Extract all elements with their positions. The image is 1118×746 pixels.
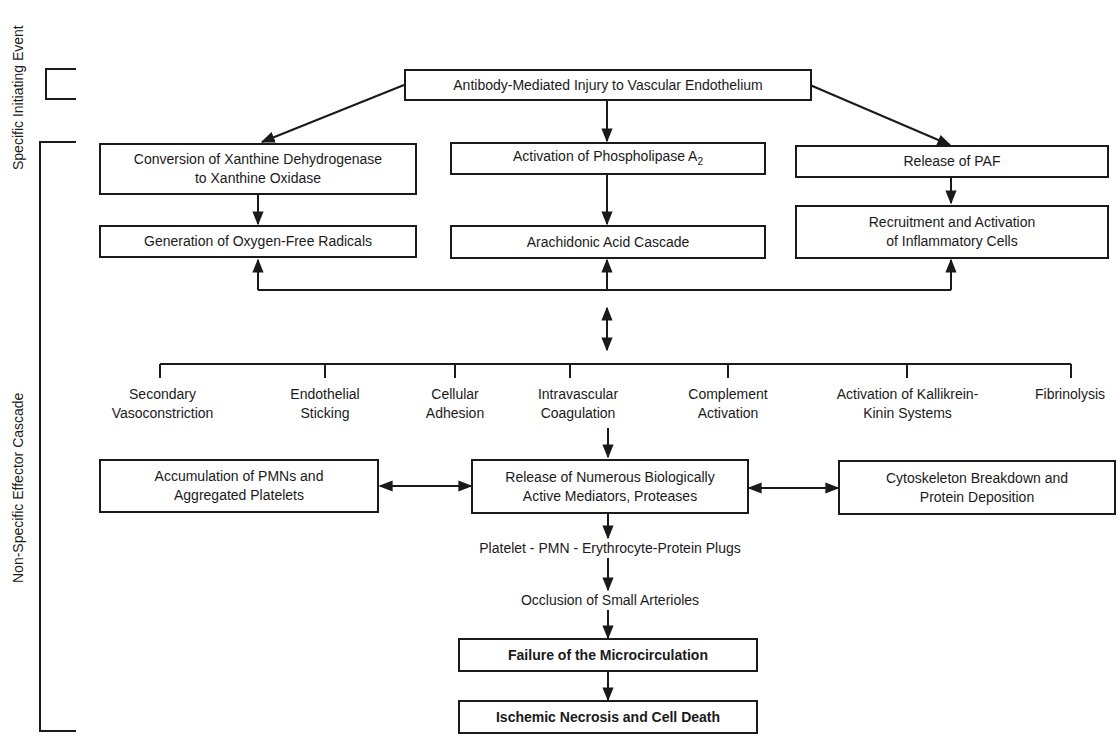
failure-node: Failure of the Microcirculation bbox=[458, 638, 758, 672]
failure-text: Failure of the Microcirculation bbox=[508, 646, 708, 665]
nonspecific-bracket bbox=[40, 142, 76, 731]
arachidonic-text: Arachidonic Acid Cascade bbox=[527, 233, 690, 252]
specific-initiating-event-label: Specific Initiating Event bbox=[10, 25, 26, 170]
effector-vasoconstriction: Secondary Vasoconstriction bbox=[95, 385, 230, 423]
root-node: Antibody-Mediated Injury to Vascular End… bbox=[404, 69, 812, 101]
effector-line2: Kinin Systems bbox=[820, 404, 995, 423]
occlusion-label: Occlusion of Small Arterioles bbox=[430, 591, 790, 610]
effector-line2: Vasoconstriction bbox=[95, 404, 230, 423]
effector-line1: Complement bbox=[668, 385, 788, 404]
phospholipase-subscript: 2 bbox=[697, 155, 703, 166]
cyto-line1: Cytoskeleton Breakdown and bbox=[886, 469, 1068, 488]
cyto-line2: Protein Deposition bbox=[920, 488, 1034, 507]
pmn-platelets-node: Accumulation of PMNs and Aggregated Plat… bbox=[99, 459, 379, 513]
recruit-line1: Recruitment and Activation bbox=[869, 213, 1036, 232]
xanthine-line1: Conversion of Xanthine Dehydrogenase bbox=[134, 150, 382, 169]
pmn-line2: Aggregated Platelets bbox=[174, 486, 304, 505]
specific-bracket bbox=[46, 69, 76, 99]
connector-lines bbox=[0, 0, 1118, 746]
recruitment-node: Recruitment and Activation of Inflammato… bbox=[795, 205, 1109, 259]
paf-text: Release of PAF bbox=[903, 152, 1000, 171]
recruit-line2: of Inflammatory Cells bbox=[886, 232, 1017, 251]
mediators-line1: Release of Numerous Biologically bbox=[505, 468, 714, 487]
effector-intravascular-coagulation: Intravascular Coagulation bbox=[518, 385, 638, 423]
root-text: Antibody-Mediated Injury to Vascular End… bbox=[453, 76, 762, 95]
arachidonic-node: Arachidonic Acid Cascade bbox=[450, 225, 766, 259]
effector-line2: Coagulation bbox=[518, 404, 638, 423]
effector-line2: Adhesion bbox=[405, 404, 505, 423]
mediators-node: Release of Numerous Biologically Active … bbox=[471, 459, 749, 514]
effector-line1: Secondary bbox=[95, 385, 230, 404]
necrosis-node: Ischemic Necrosis and Cell Death bbox=[458, 700, 758, 734]
xanthine-line2: to Xanthine Oxidase bbox=[195, 169, 321, 188]
phospholipase-text: Activation of Phospholipase A2 bbox=[513, 147, 703, 171]
effector-cellular-adhesion: Cellular Adhesion bbox=[405, 385, 505, 423]
effector-fibrinolysis: Fibrinolysis bbox=[1022, 385, 1118, 404]
pmn-line1: Accumulation of PMNs and bbox=[155, 467, 324, 486]
effector-kallikrein-kinin: Activation of Kallikrein- Kinin Systems bbox=[820, 385, 995, 423]
oxygen-text: Generation of Oxygen-Free Radicals bbox=[144, 232, 372, 251]
oxygen-radicals-node: Generation of Oxygen-Free Radicals bbox=[99, 225, 417, 258]
effector-line2: Activation bbox=[668, 404, 788, 423]
paf-node: Release of PAF bbox=[795, 145, 1109, 178]
effector-endothelial-sticking: Endothelial Sticking bbox=[265, 385, 385, 423]
nonspecific-effector-cascade-label: Non-Specific Effector Cascade bbox=[10, 393, 26, 583]
plugs-label: Platelet - PMN - Erythrocyte-Protein Plu… bbox=[430, 539, 790, 558]
effector-line1: Cellular bbox=[405, 385, 505, 404]
effector-line2: Sticking bbox=[265, 404, 385, 423]
effector-line1: Fibrinolysis bbox=[1022, 385, 1118, 404]
cytoskeleton-node: Cytoskeleton Breakdown and Protein Depos… bbox=[838, 460, 1116, 515]
xanthine-node: Conversion of Xanthine Dehydrogenase to … bbox=[99, 143, 417, 195]
mediators-line2: Active Mediators, Proteases bbox=[523, 487, 697, 506]
necrosis-text: Ischemic Necrosis and Cell Death bbox=[496, 708, 720, 727]
effector-line1: Intravascular bbox=[518, 385, 638, 404]
effector-line1: Endothelial bbox=[265, 385, 385, 404]
effector-complement-activation: Complement Activation bbox=[668, 385, 788, 423]
effector-line1: Activation of Kallikrein- bbox=[820, 385, 995, 404]
phospholipase-node: Activation of Phospholipase A2 bbox=[450, 142, 766, 175]
